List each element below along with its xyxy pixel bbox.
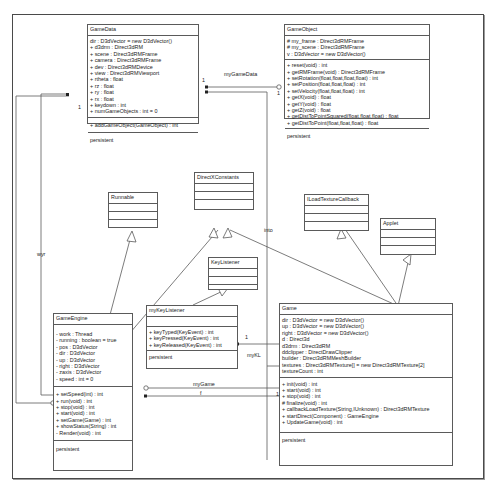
operations-section: + init(void) : int + start(void) : int +… [280, 378, 452, 433]
operations-section: + keyTyped(KeyEvent) : int + keyPressed(… [147, 327, 237, 351]
association-source-gamedata-icon [205, 86, 208, 89]
association-label-mygame: myGame [193, 381, 215, 387]
class-game[interactable]: Game dir : D3dVector = new D3dVector() u… [279, 303, 453, 466]
class-gameengine[interactable]: GameEngine - work : Thread - running : b… [53, 313, 133, 471]
class-name: DirectXConstants [195, 173, 253, 184]
footer-section [381, 246, 435, 254]
class-name: ILoadTextureCallback [305, 195, 368, 206]
footer-section: persistent [285, 129, 429, 143]
attribute: - speed : int = 0 [56, 376, 130, 382]
class-mykeylistener[interactable]: myKeyListener + keyTyped(KeyEvent) : int… [146, 305, 238, 369]
operations-section: + setSpeed(int) : int + run(void) : int … [54, 387, 132, 441]
attributes-section [381, 230, 435, 238]
operation: - Render(void) : int [56, 430, 130, 436]
class-directxconstants[interactable]: DirectXConstants [194, 172, 254, 210]
attribute: + numGameObjects : int = 0 [90, 108, 196, 114]
class-name: GameEngine [54, 314, 132, 325]
footer-section: persistent [147, 351, 237, 363]
multiplicity-mykl: 1 [245, 334, 248, 340]
class-name: myKeyListener [147, 306, 237, 317]
class-name: Applet [381, 219, 435, 230]
association-source-f-icon [144, 395, 147, 398]
footer-section: persistent [88, 133, 198, 147]
attribute: textureCount : int [282, 368, 450, 374]
aggregation-end-gameobject-icon [277, 85, 281, 89]
operations-section [209, 277, 257, 285]
class-applet[interactable]: Applet [380, 218, 436, 255]
operations-section [381, 238, 435, 246]
footer-section [109, 220, 157, 228]
class-name: Runnable [109, 193, 157, 204]
association-label-wyr: wyr [37, 251, 45, 257]
association-source-wyr-icon [66, 93, 69, 96]
operations-section: + addGameObject(GameObject) : int [88, 118, 198, 133]
class-name: Game [280, 304, 452, 315]
operation: + getDistToPoint(float,float,float) : fl… [287, 120, 427, 126]
operations-section [305, 214, 368, 222]
attributes-section [209, 269, 257, 277]
footer-section [195, 200, 253, 208]
class-gamedata[interactable]: GameData dir : D3dVector = new D3dVector… [87, 24, 199, 124]
association-label-f: f [200, 390, 202, 396]
association-source-gamedata-2-icon [205, 91, 208, 94]
generalization-arrow-applet-icon [403, 254, 411, 265]
association-label-mykl: myKL [247, 352, 261, 358]
class-name: GameObject [285, 25, 429, 36]
attributes-section [109, 204, 157, 212]
class-runnable[interactable]: Runnable [108, 192, 158, 228]
class-name: KeyListener [209, 258, 257, 269]
association-label-into: into [264, 227, 273, 233]
class-gameobject[interactable]: GameObject # my_frame : Direct3dRMFrame … [284, 24, 430, 119]
class-iloadtexturecallback[interactable]: ILoadTextureCallback [304, 194, 369, 231]
operation: + callbackLoadTexture(String,IUnknown) :… [282, 406, 450, 412]
association-label-mygamedata: myGameData [224, 71, 257, 77]
multiplicity-mygamedata-target: 1 [277, 90, 280, 96]
attributes-section [195, 184, 253, 192]
operation: + UpdateGame(void) : int [282, 419, 450, 425]
operation: + addGameObject(GameObject) : int [90, 122, 196, 128]
multiplicity-mygamedata-source: 1 [202, 77, 205, 83]
footer-section [305, 222, 368, 230]
multiplicity-wyr: 1 [78, 104, 81, 110]
attributes-section: - work : Thread - running : boolean = tr… [54, 325, 132, 387]
attributes-section: dir : D3dVector = new D3dVector() + d3dr… [88, 36, 198, 118]
generalization-arrow-directx-right-icon [223, 228, 232, 238]
attributes-section [305, 206, 368, 214]
attributes-section [147, 317, 237, 327]
footer-section [209, 285, 257, 293]
generalization-arrow-runnable-icon [127, 231, 136, 242]
class-name: GameData [88, 25, 198, 36]
operations-section [109, 212, 157, 220]
generalization-arrow-directx-left-icon [209, 228, 218, 238]
operation: + keyReleased(KeyEvent) : int [149, 342, 235, 348]
aggregation-end-mygame-icon [144, 386, 148, 390]
footer-section: persistent [280, 433, 452, 447]
attributes-section: # my_frame : Direct3dRMFrame # my_scene … [285, 36, 429, 60]
footer-section: persistent [54, 441, 132, 457]
attributes-section: dir : D3dVector = new D3dVector() up : D… [280, 315, 452, 378]
class-keylistener[interactable]: KeyListener [208, 257, 258, 290]
operations-section: + reset(void) : int + getRMFrame(void) :… [285, 60, 429, 129]
attribute: v : D3dVector = new D3dVector() [287, 51, 427, 57]
operations-section [195, 192, 253, 200]
